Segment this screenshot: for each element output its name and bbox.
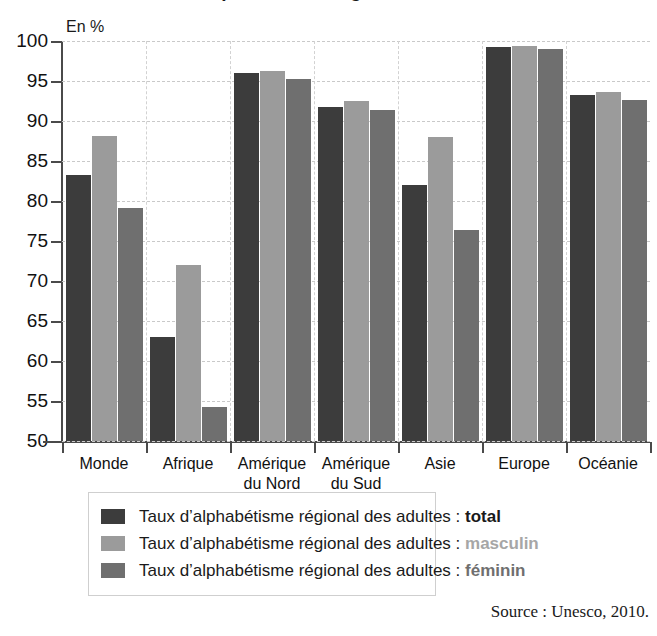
x-axis-tick — [398, 442, 400, 453]
bar-group — [62, 41, 650, 441]
y-axis-tick-label: 65 — [0, 311, 48, 330]
y-axis-tick-label: 80 — [0, 191, 48, 210]
x-axis-tick — [314, 442, 316, 453]
x-axis-category-label: Océanie — [566, 454, 650, 474]
x-axis-category-label: Europe — [482, 454, 566, 474]
legend-item-kind: masculin — [465, 534, 539, 553]
legend-item-label: Taux d’alphabétisme régional des adultes… — [139, 507, 501, 527]
legend-item-kind: féminin — [465, 561, 525, 580]
x-axis-category-label: Amérique du Nord — [230, 454, 314, 493]
x-axis-category-label: Asie — [398, 454, 482, 474]
legend-swatch-masculin — [101, 536, 125, 551]
plot-area — [62, 41, 650, 441]
y-axis-tick-label: 85 — [0, 151, 48, 170]
bar-chart: En % 50556065707580859095100 MondeAfriqu… — [0, 0, 657, 500]
y-axis-tick-label: 55 — [0, 391, 48, 410]
x-axis-tick — [146, 442, 148, 453]
x-axis-tick — [482, 442, 484, 453]
legend-item-total[interactable]: Taux d’alphabétisme régional des adultes… — [101, 503, 423, 530]
y-axis-tick-label: 60 — [0, 351, 48, 370]
y-axis-tick-label: 50 — [0, 431, 48, 450]
bar-féminin — [622, 100, 647, 441]
x-axis-tick — [62, 442, 64, 453]
y-axis-tick-label: 70 — [0, 271, 48, 290]
x-axis-tick — [230, 442, 232, 453]
y-axis-unit-label: En % — [66, 18, 104, 36]
chart-legend: Taux d’alphabétisme régional des adultes… — [88, 492, 436, 596]
x-axis-category-label: Monde — [62, 454, 146, 474]
legend-swatch-feminin — [101, 563, 125, 578]
y-axis-tick-label: 75 — [0, 231, 48, 250]
bar-total — [570, 95, 595, 441]
source-note: Source : Unesco, 2010. — [491, 602, 649, 622]
legend-item-kind: total — [465, 507, 501, 526]
x-axis-tick — [650, 442, 652, 453]
legend-item-masculin[interactable]: Taux d’alphabétisme régional des adultes… — [101, 530, 423, 557]
x-axis-category-label: Amérique du Sud — [314, 454, 398, 493]
legend-item-féminin[interactable]: Taux d’alphabétisme régional des adultes… — [101, 557, 423, 584]
x-axis-category-label: Afrique — [146, 454, 230, 474]
gridline-horizontal — [62, 441, 650, 442]
bar-masculin — [596, 92, 621, 441]
x-axis-tick — [566, 442, 568, 453]
y-axis-tick-label: 90 — [0, 111, 48, 130]
legend-item-label: Taux d’alphabétisme régional des adultes… — [139, 534, 539, 554]
y-axis-tick-label: 100 — [0, 31, 48, 50]
y-axis-tick-label: 95 — [0, 71, 48, 90]
legend-swatch-total — [101, 509, 125, 524]
legend-item-label: Taux d’alphabétisme régional des adultes… — [139, 561, 526, 581]
